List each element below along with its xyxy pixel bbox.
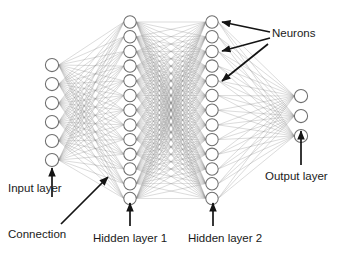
neuron-hidden1-1 xyxy=(124,16,136,28)
neuron-hidden1-2 xyxy=(124,31,136,43)
connection-line xyxy=(218,96,294,169)
neuron-hidden2-10 xyxy=(206,148,218,160)
connection-line xyxy=(59,84,124,125)
neuron-output-1 xyxy=(294,89,307,102)
neuron-hidden1-12 xyxy=(124,178,136,190)
connection-line xyxy=(59,84,124,184)
connections-group xyxy=(59,22,295,198)
neuron-input-5 xyxy=(45,134,58,147)
neuron-hidden2-3 xyxy=(206,45,218,57)
connection-line xyxy=(218,125,294,136)
neuron-hidden2-5 xyxy=(206,75,218,87)
connection-line xyxy=(59,122,124,198)
neuron-hidden1-6 xyxy=(124,89,136,101)
neuron-hidden2-13 xyxy=(206,192,218,204)
connection-line xyxy=(59,37,124,65)
connection-line xyxy=(218,136,294,169)
connection-line xyxy=(218,116,294,169)
neuron-output-2 xyxy=(294,109,307,122)
neurons-annotation-arrow-1 xyxy=(222,22,270,32)
neuron-hidden1-3 xyxy=(124,45,136,57)
neuron-hidden2-1 xyxy=(206,16,218,28)
neuron-hidden1-4 xyxy=(124,60,136,72)
connection-annotation-arrow xyxy=(61,177,108,224)
neuron-input-2 xyxy=(45,77,58,90)
connection-line xyxy=(59,51,124,65)
hidden-layer-1-label: Hidden layer 1 xyxy=(93,232,167,244)
neuron-hidden2-4 xyxy=(206,60,218,72)
neuron-input-3 xyxy=(45,96,58,109)
connection-line xyxy=(218,51,294,116)
neuron-hidden1-13 xyxy=(124,192,136,204)
output-layer-label: Output layer xyxy=(265,170,328,182)
neuron-hidden1-9 xyxy=(124,133,136,145)
neuron-hidden1-5 xyxy=(124,75,136,87)
neuron-hidden2-2 xyxy=(206,31,218,43)
input-layer-label: Input layer xyxy=(8,182,62,194)
connection-line xyxy=(218,37,294,136)
neuron-hidden1-7 xyxy=(124,104,136,116)
neuron-hidden2-9 xyxy=(206,133,218,145)
connection-line xyxy=(218,136,294,140)
neuron-input-4 xyxy=(45,115,58,128)
neuron-hidden1-10 xyxy=(124,148,136,160)
neuron-hidden2-11 xyxy=(206,163,218,175)
connection-line xyxy=(218,37,294,96)
neuron-hidden2-7 xyxy=(206,104,218,116)
connection-line xyxy=(218,66,294,96)
connection-line xyxy=(218,96,294,140)
connection-line xyxy=(59,37,124,141)
neuron-hidden2-8 xyxy=(206,119,218,131)
neuron-input-1 xyxy=(45,58,58,71)
neuron-hidden2-12 xyxy=(206,178,218,190)
connection-line xyxy=(59,122,124,169)
hidden-layer-2-label: Hidden layer 2 xyxy=(188,232,262,244)
connection-line xyxy=(218,116,294,154)
connection-line xyxy=(218,116,294,198)
connection-line xyxy=(59,37,124,84)
neuron-hidden2-6 xyxy=(206,89,218,101)
neuron-hidden1-11 xyxy=(124,163,136,175)
connection-line xyxy=(59,22,124,65)
neuron-input-6 xyxy=(45,153,58,166)
connection-label: Connection xyxy=(8,228,66,240)
connection-line xyxy=(59,160,124,169)
connection-line xyxy=(59,141,124,184)
neuron-hidden1-8 xyxy=(124,119,136,131)
neurons-label: Neurons xyxy=(272,27,315,39)
connection-line xyxy=(59,37,124,103)
connection-line xyxy=(218,96,294,97)
connection-line xyxy=(218,96,294,110)
connection-line xyxy=(59,51,124,122)
connection-line xyxy=(218,22,294,136)
neural-network-diagram: Input layer Connection Hidden layer 1 Hi… xyxy=(0,0,343,256)
connection-line xyxy=(218,96,294,198)
